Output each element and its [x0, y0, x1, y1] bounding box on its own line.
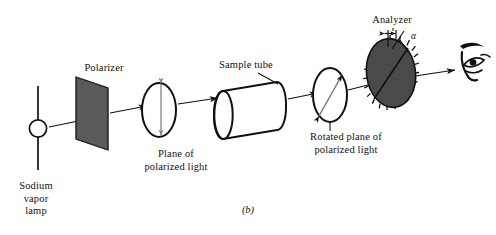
- label-analyzer: Analyzer: [372, 14, 412, 27]
- label-polarizer: Polarizer: [84, 62, 123, 75]
- figure-caption: (b): [242, 204, 254, 215]
- figure-canvas: Polarizer Sample tube Analyzer α Plane o…: [0, 0, 496, 235]
- polarizer-plate: [76, 77, 108, 150]
- ray-analyzer-to-eye: [415, 70, 455, 76]
- sample-tube: [214, 82, 286, 139]
- label-sample-tube: Sample tube: [219, 59, 273, 72]
- rotated-plane-of-polarized-light-ellipse: [313, 68, 347, 122]
- label-sodium-vapor-lamp: Sodium vapor lamp: [19, 180, 53, 218]
- label-plane-of-polarized-light: Plane of polarized light: [144, 148, 207, 173]
- label-rotated-plane-of-polarized-light: Rotated plane of polarized light: [310, 131, 382, 156]
- label-angle-alpha: α: [411, 31, 416, 41]
- plane-of-polarized-light-ellipse: [142, 83, 176, 137]
- sodium-vapor-lamp-symbol: [29, 86, 46, 170]
- observer-eye: [460, 43, 490, 81]
- leader-sample-tube: [258, 73, 278, 84]
- analyzer-disc: [362, 35, 419, 110]
- polarimeter-diagram: [0, 0, 496, 235]
- ray-plane1-to-tube: [178, 98, 218, 104]
